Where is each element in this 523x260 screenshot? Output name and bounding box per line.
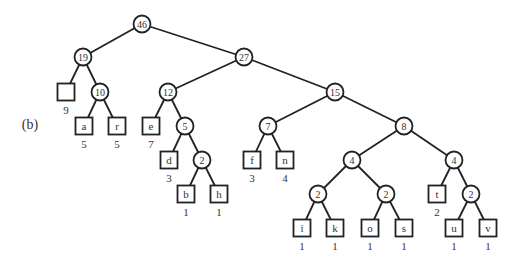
- node-weight: 27: [239, 52, 249, 63]
- tree-nodes: 461927910a5r512e75d32b1h1157f3n484422t22…: [58, 16, 497, 253]
- tree-edge: [83, 24, 142, 57]
- leaf-symbol: t: [435, 188, 438, 200]
- leaf-node: 9: [58, 84, 75, 117]
- internal-node: 2: [194, 152, 211, 169]
- internal-node: 8: [396, 118, 413, 135]
- leaf-symbol: k: [332, 222, 338, 234]
- leaf-weight: 1: [299, 240, 305, 252]
- internal-node: 2: [378, 186, 395, 203]
- tree-edge: [335, 92, 404, 126]
- leaf-weight: 3: [166, 172, 172, 184]
- tree-edge: [168, 57, 244, 92]
- leaf-weight: 2: [434, 206, 440, 218]
- internal-node: 7: [260, 118, 277, 135]
- internal-node: 2: [463, 186, 480, 203]
- tree-edge: [268, 92, 335, 126]
- leaf-symbol: h: [216, 188, 222, 200]
- node-weight: 2: [384, 189, 389, 200]
- leaf-symbol: v: [485, 222, 491, 234]
- huffman-tree-diagram: (b) 461927910a5r512e75d32b1h1157f3n48442…: [0, 0, 523, 260]
- internal-node: 5: [177, 118, 194, 135]
- node-weight: 4: [452, 155, 457, 166]
- leaf-weight: 1: [183, 206, 189, 218]
- leaf-node: u1: [446, 220, 463, 253]
- leaf-symbol: n: [282, 154, 288, 166]
- leaf-weight: 5: [114, 138, 120, 150]
- leaf-symbol: u: [451, 222, 457, 234]
- internal-node: 4: [446, 152, 463, 169]
- leaf-node: r5: [109, 118, 126, 151]
- internal-node: 10: [92, 84, 109, 101]
- leaf-weight: 1: [332, 240, 338, 252]
- leaf-node: v1: [480, 220, 497, 253]
- leaf-node: n4: [277, 152, 294, 185]
- node-weight: 12: [163, 87, 173, 98]
- node-weight: 8: [402, 121, 407, 132]
- leaf-node: h1: [211, 186, 228, 219]
- part-label: (b): [22, 117, 39, 133]
- leaf-weight: 4: [282, 172, 288, 184]
- node-weight: 5: [183, 121, 188, 132]
- leaf-weight: 1: [216, 206, 222, 218]
- leaf-node: o1: [362, 220, 379, 253]
- internal-node: 4: [344, 152, 361, 169]
- leaf-symbol: i: [300, 222, 303, 234]
- internal-node: 15: [327, 84, 344, 101]
- node-weight: 7: [266, 121, 271, 132]
- leaf-weight: 1: [451, 240, 457, 252]
- leaf-node: k1: [327, 220, 344, 253]
- leaf-symbol: b: [183, 188, 189, 200]
- internal-node: 2: [310, 186, 327, 203]
- leaf-node: s1: [396, 220, 413, 253]
- internal-node: 19: [75, 49, 92, 66]
- internal-node: 27: [236, 49, 253, 66]
- node-weight: 10: [95, 87, 105, 98]
- leaf-symbol: e: [149, 120, 154, 132]
- leaf-symbol: r: [115, 120, 119, 132]
- leaf-symbol: f: [250, 154, 254, 166]
- leaf-symbol: o: [367, 222, 373, 234]
- node-weight: 19: [78, 52, 88, 63]
- square-leaf-shape: [58, 84, 75, 101]
- leaf-node: a5: [76, 118, 93, 151]
- leaf-weight: 9: [63, 104, 69, 116]
- internal-node: 12: [160, 84, 177, 101]
- node-weight: 46: [137, 19, 147, 30]
- node-weight: 2: [316, 189, 321, 200]
- leaf-node: e7: [143, 118, 160, 151]
- leaf-symbol: d: [166, 154, 172, 166]
- leaf-node: d3: [161, 152, 178, 185]
- leaf-node: i1: [294, 220, 311, 253]
- leaf-node: f3: [244, 152, 261, 185]
- leaf-weight: 3: [249, 172, 255, 184]
- tree-edge: [142, 24, 244, 57]
- node-weight: 2: [200, 155, 205, 166]
- node-weight: 4: [350, 155, 355, 166]
- internal-node: 46: [134, 16, 151, 33]
- leaf-weight: 5: [81, 138, 87, 150]
- node-weight: 2: [469, 189, 474, 200]
- node-weight: 15: [330, 87, 340, 98]
- leaf-weight: 7: [148, 138, 154, 150]
- leaf-symbol: a: [82, 120, 87, 132]
- tree-edge: [244, 57, 335, 92]
- leaf-node: t2: [429, 186, 446, 219]
- leaf-node: b1: [178, 186, 195, 219]
- leaf-weight: 1: [367, 240, 373, 252]
- leaf-weight: 1: [401, 240, 407, 252]
- leaf-symbol: s: [402, 222, 406, 234]
- leaf-weight: 1: [485, 240, 491, 252]
